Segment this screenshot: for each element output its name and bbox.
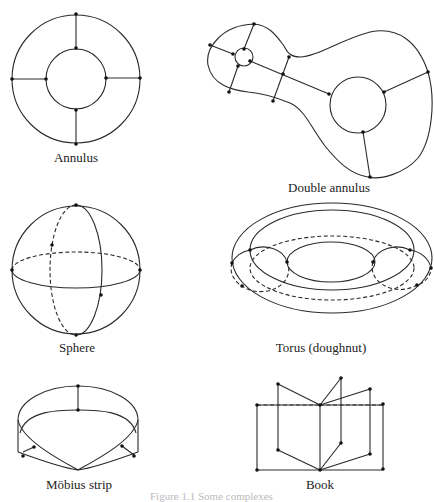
annulus-diagram <box>10 12 142 146</box>
torus-label: Torus (doughnut) <box>276 340 366 356</box>
double-annulus-label: Double annulus <box>288 180 370 196</box>
mobius-strip-label: Möbius strip <box>46 477 112 493</box>
figure-caption: Figure 1.1 Some complexes <box>150 490 273 502</box>
double-annulus-diagram <box>208 22 432 179</box>
sphere-label: Sphere <box>59 340 95 356</box>
book-diagram <box>255 376 385 472</box>
sphere-diagram <box>10 203 142 337</box>
annulus-label: Annulus <box>54 150 98 166</box>
torus-diagram <box>230 203 433 313</box>
mobius-strip-diagram <box>18 384 138 470</box>
book-label: Book <box>306 477 334 493</box>
